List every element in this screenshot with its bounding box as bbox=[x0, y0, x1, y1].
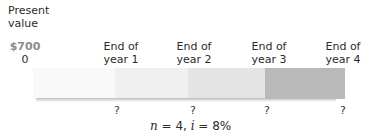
period-zero-label: 0 bbox=[8, 53, 42, 66]
future-value-year-2: ? bbox=[188, 104, 198, 117]
period-label-line1: End of bbox=[96, 40, 146, 53]
period-label-line1: End of bbox=[169, 40, 219, 53]
period-label-line2: year 4 bbox=[318, 53, 368, 66]
timeline-bar bbox=[33, 68, 345, 99]
present-value-title-line1: Present bbox=[8, 4, 64, 17]
timeline-segment-year-4 bbox=[265, 68, 345, 99]
formula-n-value: = 4, bbox=[158, 119, 191, 133]
present-value-title-line2: value bbox=[8, 17, 64, 30]
period-label-line2: year 1 bbox=[96, 53, 146, 66]
period-label-year-3: End of year 3 bbox=[244, 40, 294, 66]
formula-label: n = 4, i = 8% bbox=[150, 119, 231, 133]
formula-n-variable: n bbox=[150, 119, 158, 133]
period-label-line1: End of bbox=[318, 40, 368, 53]
timeline-segment-year-2 bbox=[115, 68, 188, 99]
period-label-year-2: End of year 2 bbox=[169, 40, 219, 66]
present-value-amount: $700 bbox=[8, 40, 42, 53]
period-label-year-1: End of year 1 bbox=[96, 40, 146, 66]
present-value-title: Present value bbox=[8, 4, 64, 30]
future-value-year-3: ? bbox=[262, 104, 272, 117]
timeline-shadow bbox=[36, 98, 336, 102]
future-value-year-1: ? bbox=[112, 104, 122, 117]
period-label-line2: year 2 bbox=[169, 53, 219, 66]
period-label-line2: year 3 bbox=[244, 53, 294, 66]
formula-i-value: = 8% bbox=[195, 119, 232, 133]
future-value-year-4: ? bbox=[338, 104, 348, 117]
period-label-year-4: End of year 4 bbox=[318, 40, 368, 66]
period-label-line1: End of bbox=[244, 40, 294, 53]
timeline-segment-year-1 bbox=[33, 68, 115, 99]
timeline-segment-year-3 bbox=[188, 68, 265, 99]
